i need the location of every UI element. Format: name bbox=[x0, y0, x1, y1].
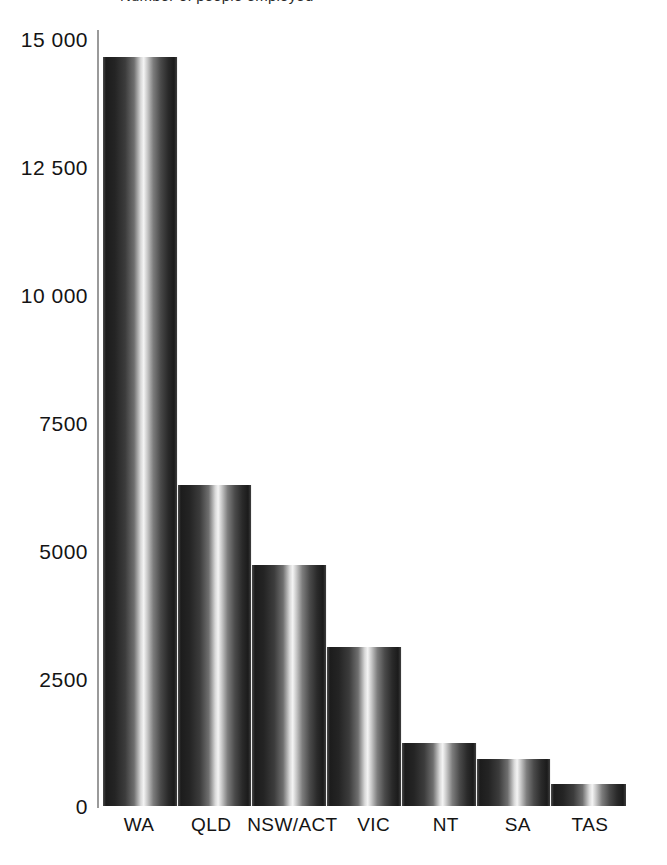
y-axis-line bbox=[97, 30, 99, 808]
cropped-caption-text: Number of people employed bbox=[120, 0, 313, 4]
bar-tas bbox=[551, 784, 626, 806]
y-tick-label-0: 0 bbox=[2, 796, 88, 817]
bar-nsw-act bbox=[252, 565, 327, 806]
x-axis-labels: WA QLD NSW/ACT VIC NT SA TAS bbox=[103, 814, 626, 836]
x-tick-label-vic: VIC bbox=[338, 814, 410, 836]
y-tick-label-10000: 10 000 bbox=[2, 285, 88, 306]
bar-slot-nsw-act bbox=[252, 36, 327, 806]
x-tick-label-nsw-act: NSW/ACT bbox=[247, 814, 337, 836]
bar-slot-vic bbox=[327, 36, 402, 806]
x-tick-label-wa: WA bbox=[103, 814, 175, 836]
bar-nt bbox=[402, 743, 477, 806]
bar-vic bbox=[327, 647, 402, 806]
bar-chart-figure: Number of people employed 15 000 12 500 … bbox=[0, 0, 667, 865]
bar-slot-qld bbox=[178, 36, 253, 806]
bar-slot-nt bbox=[402, 36, 477, 806]
y-tick-label-12500: 12 500 bbox=[2, 157, 88, 178]
x-tick-label-tas: TAS bbox=[554, 814, 626, 836]
y-tick-label-15000: 15 000 bbox=[2, 29, 88, 50]
bar-slot-wa bbox=[103, 36, 178, 806]
bar-series bbox=[103, 36, 626, 806]
y-tick-label-2500: 2500 bbox=[2, 669, 88, 690]
bar-slot-sa bbox=[477, 36, 552, 806]
y-tick-label-5000: 5000 bbox=[2, 541, 88, 562]
bar-wa bbox=[103, 57, 178, 806]
bar-qld bbox=[178, 485, 253, 806]
bar-slot-tas bbox=[551, 36, 626, 806]
bar-sa bbox=[477, 759, 552, 806]
cropped-caption-strip: Number of people employed bbox=[0, 0, 667, 12]
x-tick-label-sa: SA bbox=[482, 814, 554, 836]
x-tick-label-nt: NT bbox=[410, 814, 482, 836]
x-tick-label-qld: QLD bbox=[175, 814, 247, 836]
y-tick-label-7500: 7500 bbox=[2, 413, 88, 434]
y-axis-labels: 15 000 12 500 10 000 7500 5000 2500 0 bbox=[0, 0, 88, 865]
